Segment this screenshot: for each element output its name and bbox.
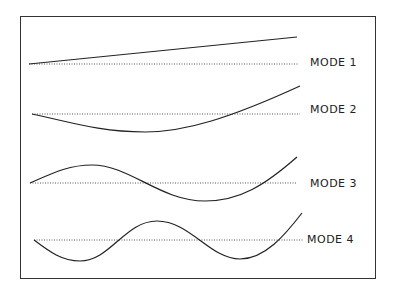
mode-3-label: MODE 3 <box>310 177 357 190</box>
mode-4-label: MODE 4 <box>307 233 354 246</box>
mode-1-label: MODE 1 <box>310 56 357 69</box>
mode-1-curve <box>29 37 297 64</box>
mode-2-label: MODE 2 <box>310 103 357 116</box>
mode-3-curve <box>30 157 297 201</box>
mode-2-curve <box>32 86 300 132</box>
mode-4-curve <box>34 213 302 261</box>
mode-shapes-diagram <box>0 0 396 294</box>
